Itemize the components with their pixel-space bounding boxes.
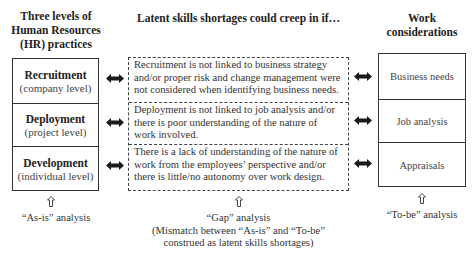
to-be-analysis-caption: “To-be” analysis (366, 209, 472, 222)
double-arrow-icon (106, 161, 124, 170)
as-is-analysis-caption: “As-is” analysis (0, 212, 112, 225)
gap-analysis-caption: “Gap” analysis (Mismatch between “As-is”… (128, 212, 349, 250)
double-arrow-icon (106, 118, 124, 127)
shortage-condition-recruitment: Recruitment is not linked to business st… (129, 58, 348, 102)
work-considerations-box: Business needs Job analysis Appraisals (378, 53, 466, 187)
hr-level-deployment: Deployment (project level) (13, 103, 98, 147)
double-arrow-icon (354, 72, 372, 81)
shortage-condition-deployment: Deployment is not linked to job analysis… (129, 102, 348, 144)
hr-practices-box: Recruitment (company level) Deployment (… (12, 58, 99, 191)
hr-practices-heading: Three levels of Human Resources (HR) pra… (0, 9, 112, 51)
shortage-condition-development: There is a lack of understanding of the … (129, 144, 348, 190)
up-arrow-icon (418, 193, 426, 204)
work-item-job-analysis: Job analysis (379, 99, 465, 143)
up-arrow-icon (47, 196, 55, 207)
hr-level-development: Development (individual level) (13, 146, 98, 191)
work-considerations-heading: Work considerations (372, 11, 472, 39)
work-item-appraisals: Appraisals (379, 142, 465, 187)
up-arrow-icon (235, 196, 243, 207)
hr-level-recruitment: Recruitment (company level) (13, 59, 98, 103)
double-arrow-icon (106, 74, 124, 83)
work-item-business-needs: Business needs (379, 54, 465, 99)
double-arrow-icon (354, 116, 372, 125)
latent-shortages-box: Recruitment is not linked to business st… (128, 57, 349, 191)
latent-shortages-heading: Latent skills shortages could creep in i… (128, 11, 349, 25)
double-arrow-icon (354, 159, 372, 168)
